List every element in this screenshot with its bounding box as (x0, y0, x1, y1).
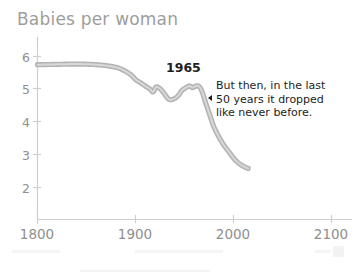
annotation-line-1: But then, in the last (216, 79, 348, 93)
x-tick-label-1800: 1800 (12, 226, 62, 242)
footer-smudge-left (12, 250, 60, 253)
annotation-line-2: 50 years it dropped (216, 93, 348, 107)
footer-smudge-right (315, 250, 331, 253)
peak-year-label: 1965 (166, 60, 201, 75)
annotation-line-3: like never before. (216, 106, 348, 120)
footer-logo-icon (333, 246, 344, 257)
y-tick-label-6: 6 (12, 50, 30, 65)
decline-annotation: But then, in the last 50 years it droppe… (216, 79, 348, 120)
y-tick-label-5: 5 (12, 82, 30, 97)
x-tick-label-2100: 2100 (306, 226, 356, 242)
x-tick-label-2000: 2000 (208, 226, 258, 242)
footer-smudge-caption (80, 270, 210, 272)
footer-smudge-center (135, 250, 223, 253)
x-tick-label-1900: 1900 (110, 226, 160, 242)
y-tick-label-4: 4 (12, 115, 30, 130)
footer-artifacts (0, 246, 362, 275)
chart-canvas: Babies per woman 6 5 4 3 2 (0, 0, 362, 275)
y-tick-label-3: 3 (12, 148, 30, 163)
annotation-pointer-icon (208, 95, 212, 101)
y-tick-label-2: 2 (12, 181, 30, 196)
